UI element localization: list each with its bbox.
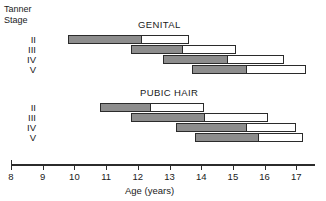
range-bar-shaded-segment: [164, 56, 227, 63]
range-bar: [176, 123, 296, 132]
x-axis-tick-label: 8: [1, 171, 21, 182]
range-bar-shaded-segment: [177, 124, 247, 131]
x-axis-tick: [138, 166, 139, 170]
range-bar-shaded-segment: [101, 104, 152, 111]
stage-label-v: V: [14, 132, 36, 143]
range-bar-shaded-segment: [193, 66, 247, 73]
stage-label-v: V: [14, 64, 36, 75]
x-axis-tick-label: 16: [255, 171, 275, 182]
x-axis-tick-label: 9: [33, 171, 53, 182]
range-bar-shaded-segment: [196, 134, 259, 141]
y-axis-title-line2: Stage: [4, 15, 32, 26]
range-bar: [163, 55, 283, 64]
x-axis-tick: [43, 166, 44, 170]
x-axis-tick: [265, 166, 266, 170]
tanner-stage-range-chart: Tanner Stage GENITAL PUBIC HAIR IIIIIIVV…: [0, 0, 326, 201]
x-axis-tick: [233, 166, 234, 170]
x-axis-tick: [11, 166, 12, 170]
range-bar-shaded-segment: [132, 46, 183, 53]
range-bar: [192, 65, 306, 74]
x-axis-tick-label: 11: [96, 171, 116, 182]
range-bar-shaded-segment: [132, 114, 205, 121]
x-axis-tick-label: 13: [160, 171, 180, 182]
x-axis-tick-label: 17: [286, 171, 306, 182]
range-bar: [131, 113, 267, 122]
x-axis-tick-label: 14: [191, 171, 211, 182]
panel-title-pubic: PUBIC HAIR: [140, 87, 198, 98]
panel-title-genital: GENITAL: [138, 19, 181, 30]
range-bar: [195, 133, 303, 142]
x-axis-tick-label: 12: [128, 171, 148, 182]
x-axis-tick-label: 15: [223, 171, 243, 182]
x-axis-tick: [170, 166, 171, 170]
range-bar-shaded-segment: [69, 36, 142, 43]
range-bar: [100, 103, 205, 112]
y-axis-title: Tanner Stage: [4, 4, 32, 26]
x-axis-title: Age (years): [125, 185, 174, 196]
x-axis-tick: [106, 166, 107, 170]
range-bar: [131, 45, 236, 54]
x-axis-tick-label: 10: [64, 171, 84, 182]
y-axis-title-line1: Tanner: [4, 4, 32, 15]
x-axis-tick: [74, 166, 75, 170]
range-bar: [68, 35, 188, 44]
x-axis-tick: [296, 166, 297, 170]
x-axis-tick: [201, 166, 202, 170]
x-axis-line: [11, 164, 315, 166]
